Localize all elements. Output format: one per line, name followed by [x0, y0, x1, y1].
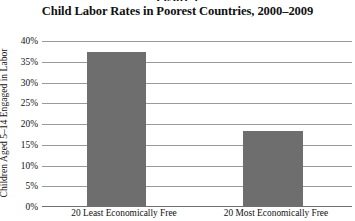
y-tick-label-10: 10% — [0, 161, 38, 171]
y-axis-label: Children Aged 5–14 Engaged in Labor — [0, 0, 10, 38]
y-tick-label-40: 40% — [0, 36, 38, 46]
y-tick-label-35: 35% — [0, 57, 38, 67]
y-tick-label-5: 5% — [0, 181, 38, 191]
chart-title: Child Labor Rates in Poorest Countries, … — [0, 4, 355, 19]
plot-area: 40% 35% 30% 25% 20% 15% 10% 5% 0% — [42, 41, 352, 207]
x-tick-label-most-free: 20 Most Economically Free — [196, 208, 355, 218]
figure-caption-fragment: Figure 1 — [0, 0, 355, 1]
y-tick-label-15: 15% — [0, 140, 38, 150]
gridline-40 — [42, 41, 352, 42]
x-tick-label-least-free: 20 Least Economically Free — [44, 208, 204, 218]
y-tick-label-0: 0% — [0, 202, 38, 212]
bar-least-economically-free — [87, 52, 146, 207]
bar-most-economically-free — [243, 131, 303, 207]
y-tick-label-30: 30% — [0, 78, 38, 88]
y-tick-label-25: 25% — [0, 98, 38, 108]
y-tick-label-20: 20% — [0, 119, 38, 129]
